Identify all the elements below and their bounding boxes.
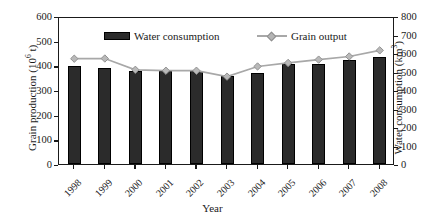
grain-output-marker-2006 bbox=[315, 56, 322, 63]
x-axis-tickmark bbox=[134, 165, 135, 169]
x-axis-tickmark bbox=[195, 165, 196, 169]
y-axis-right-tick-label: 500 bbox=[401, 68, 425, 78]
y-axis-right-tick-label: 0 bbox=[401, 160, 425, 170]
y-axis-right-tick-label: 300 bbox=[401, 105, 425, 115]
x-axis-tickmark bbox=[379, 165, 380, 169]
y-axis-right-tick-label: 200 bbox=[401, 123, 425, 133]
x-axis-tickmark bbox=[348, 165, 349, 169]
y-axis-right-tick-label: 100 bbox=[401, 142, 425, 152]
y-axis-right-tick-label: 700 bbox=[401, 31, 425, 41]
y-axis-left-tickmark bbox=[54, 165, 58, 166]
plot-area: Water consumption Grain output bbox=[58, 17, 394, 165]
y-axis-right-tick-label: 600 bbox=[401, 49, 425, 59]
x-axis-tickmark bbox=[287, 165, 288, 169]
y-axis-left-tick-label: 600 bbox=[12, 12, 52, 22]
grain-output-marker-2000 bbox=[132, 66, 139, 73]
grain-output-marker-2003 bbox=[223, 73, 230, 80]
y-axis-right-tick-label: 400 bbox=[401, 86, 425, 96]
grain-output-marker-2002 bbox=[193, 67, 200, 74]
grain-output-marker-2001 bbox=[162, 67, 169, 74]
x-axis-title: Year bbox=[0, 202, 425, 214]
y-axis-left-title: Grain production (106 t) bbox=[24, 23, 38, 173]
grain-output-marker-2007 bbox=[346, 53, 353, 60]
x-axis-tickmark bbox=[165, 165, 166, 169]
grain-output-marker-2005 bbox=[284, 59, 291, 66]
y-axis-right-tick-label: 800 bbox=[401, 12, 425, 22]
x-axis-tickmark bbox=[226, 165, 227, 169]
grain-output-marker-2008 bbox=[376, 47, 383, 54]
chart-container: 6005004003002001000 80070060050040030020… bbox=[0, 0, 425, 222]
line-series-grain-output bbox=[59, 18, 395, 166]
grain-output-marker-2004 bbox=[254, 63, 261, 70]
x-axis-tickmark bbox=[73, 165, 74, 169]
grain-output-marker-1998 bbox=[71, 55, 78, 62]
x-axis-tickmark bbox=[104, 165, 105, 169]
x-axis-tickmark bbox=[318, 165, 319, 169]
grain-output-marker-1999 bbox=[101, 55, 108, 62]
x-axis-tickmark bbox=[257, 165, 258, 169]
y-axis-right-title: Water consumption (km3) bbox=[390, 23, 404, 173]
